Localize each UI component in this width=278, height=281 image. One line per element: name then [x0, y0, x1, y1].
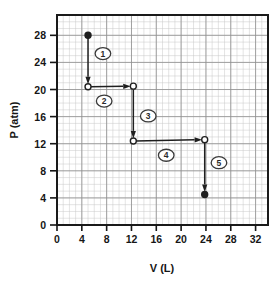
x-tick-label: 32: [250, 233, 262, 245]
x-tick-label: 28: [225, 233, 237, 245]
y-tick-label: 24: [34, 56, 46, 68]
x-tick-label: 8: [104, 233, 110, 245]
x-tick-label: 16: [150, 233, 162, 245]
state-point-b: [130, 83, 136, 89]
pv-diagram-figure: 048121620242832 0481216202428 V (L) P (a…: [0, 0, 278, 281]
y-tick-label: 28: [34, 29, 46, 41]
y-tick-label: 4: [40, 192, 46, 204]
y-axis-title: P (atm): [8, 101, 20, 138]
step-badge-label-3: 3: [146, 111, 151, 121]
pv-diagram-svg: 048121620242832 0481216202428 V (L) P (a…: [0, 0, 278, 281]
y-tick-label: 20: [34, 84, 46, 96]
x-tick-label: 24: [200, 233, 212, 245]
step-badge-label-1: 1: [101, 49, 106, 59]
state-point-d: [202, 137, 208, 143]
x-axis-title: V (L): [150, 262, 175, 274]
state-point-c: [130, 138, 136, 144]
state-point-a: [85, 84, 91, 90]
x-tick-label: 4: [79, 233, 85, 245]
state-point-end: [202, 192, 208, 198]
x-tick-label: 20: [175, 233, 187, 245]
y-tick-label: 8: [40, 165, 46, 177]
y-tick-label: 12: [34, 138, 46, 150]
step-badge-label-5: 5: [217, 158, 222, 168]
x-tick-label: 0: [54, 233, 60, 245]
x-tick-label: 12: [126, 233, 138, 245]
y-tick-label: 0: [40, 219, 46, 231]
y-tick-label: 16: [34, 111, 46, 123]
state-point-start: [85, 32, 91, 38]
step-badge-label-2: 2: [102, 96, 107, 106]
step-badge-label-4: 4: [164, 150, 169, 160]
